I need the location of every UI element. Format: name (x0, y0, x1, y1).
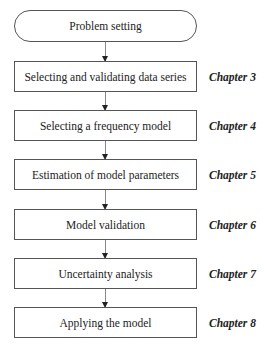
arrow-down-icon (105, 141, 106, 159)
node-label: Selecting and validating data series (24, 71, 186, 83)
node-label: Selecting a frequency model (40, 120, 171, 132)
arrow-down-icon (105, 42, 106, 61)
chapter-label: Chapter 3 (209, 61, 256, 92)
step-node-applying-model: Applying the model (14, 307, 197, 338)
arrow-down-icon (105, 289, 106, 307)
node-label: Estimation of model parameters (32, 169, 179, 181)
step-node-data-series: Selecting and validating data series (14, 61, 197, 92)
node-label: Uncertainty analysis (58, 268, 152, 280)
chapter-label: Chapter 4 (209, 110, 256, 141)
arrow-down-icon (105, 240, 106, 258)
node-label: Applying the model (60, 317, 152, 329)
chapter-label: Chapter 7 (209, 258, 256, 289)
start-node-problem-setting: Problem setting (14, 10, 197, 42)
chapter-label: Chapter 8 (209, 307, 256, 338)
chapter-label: Chapter 6 (209, 209, 256, 240)
node-label: Model validation (66, 219, 145, 231)
step-node-uncertainty-analysis: Uncertainty analysis (14, 258, 197, 289)
arrow-down-icon (105, 190, 106, 209)
arrow-down-icon (105, 92, 106, 110)
chapter-label: Chapter 5 (209, 159, 256, 190)
step-node-frequency-model: Selecting a frequency model (14, 110, 197, 141)
step-node-parameter-estimation: Estimation of model parameters (14, 159, 197, 190)
node-label: Problem setting (69, 20, 142, 32)
step-node-model-validation: Model validation (14, 209, 197, 240)
